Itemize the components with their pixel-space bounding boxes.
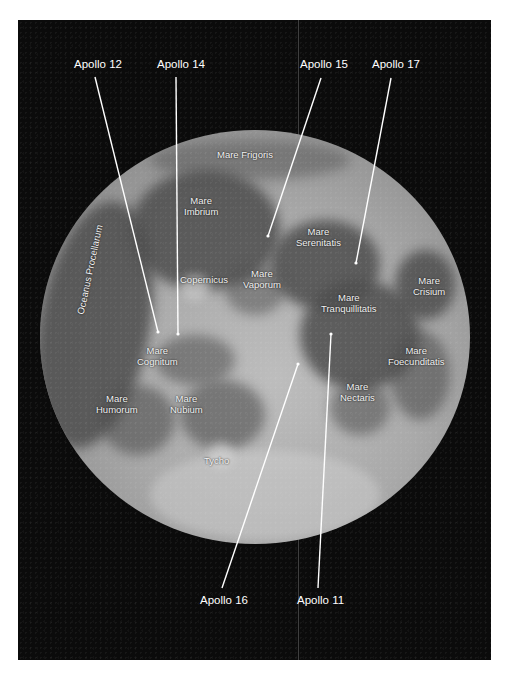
- landing-site-marker: [156, 330, 159, 333]
- landing-site-marker: [266, 234, 269, 237]
- pointer-line-apollo-15: [268, 78, 321, 236]
- landing-site-marker: [296, 362, 299, 365]
- pointer-line-apollo-14: [176, 77, 178, 334]
- pointer-line-apollo-16: [222, 364, 298, 588]
- label-apollo-16: Apollo 16: [200, 593, 248, 607]
- pointer-line-apollo-17: [356, 78, 391, 263]
- landing-site-marker: [329, 332, 332, 335]
- label-apollo-15: Apollo 15: [300, 57, 348, 71]
- label-apollo-17: Apollo 17: [372, 57, 420, 71]
- label-apollo-14: Apollo 14: [157, 57, 205, 71]
- pointer-line-apollo-11: [318, 334, 331, 588]
- label-apollo-11: Apollo 11: [297, 593, 344, 607]
- landing-site-marker: [176, 332, 179, 335]
- label-apollo-12: Apollo 12: [74, 57, 122, 71]
- pointer-line-apollo-12: [95, 77, 158, 332]
- apollo-pointer-lines: [0, 0, 507, 678]
- landing-site-marker: [354, 261, 357, 264]
